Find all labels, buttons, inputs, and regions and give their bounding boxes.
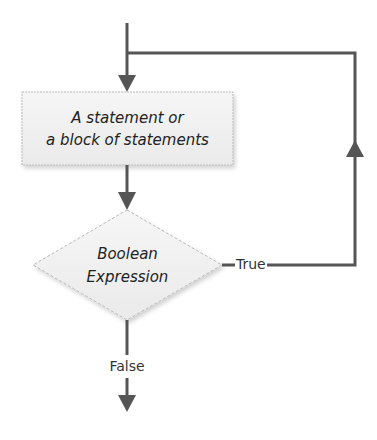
- statement-line-1: A statement or: [71, 107, 183, 129]
- condition-label: Boolean Expression: [50, 240, 205, 292]
- true-edge-label: True: [235, 256, 267, 272]
- entry-arrowhead-icon: [118, 75, 136, 92]
- condition-line-1: Boolean: [97, 243, 158, 266]
- statement-line-2: a block of statements: [46, 129, 209, 151]
- condition-arrowhead-icon: [118, 192, 136, 210]
- condition-line-2: Expression: [87, 266, 169, 289]
- flowchart-canvas: [0, 0, 377, 440]
- statement-box-label: A statement or a block of statements: [22, 92, 233, 165]
- false-edge-label: False: [104, 358, 150, 374]
- exit-arrowhead-icon: [118, 395, 136, 412]
- loop-arrowhead-icon: [346, 140, 364, 157]
